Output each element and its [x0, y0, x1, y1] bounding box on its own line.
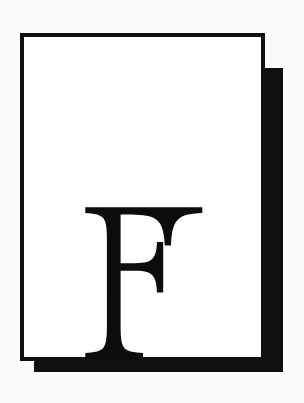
monogram-artwork: [0, 0, 304, 403]
card-paper-surface: [24, 37, 261, 357]
letter-f-glyph: [63, 174, 205, 364]
letter-card: [20, 33, 265, 361]
